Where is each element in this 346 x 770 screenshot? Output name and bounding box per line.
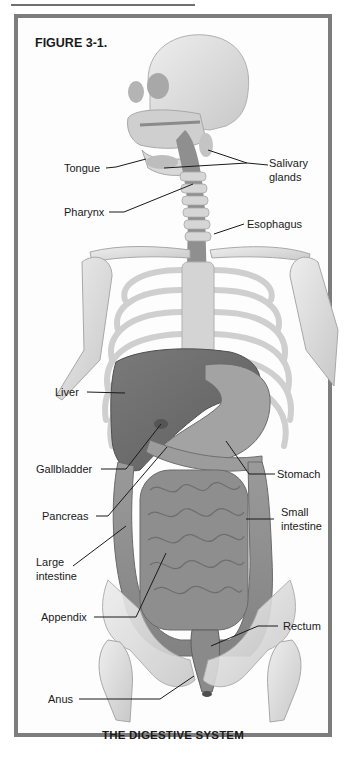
digestive-system-illustration <box>0 0 346 770</box>
label-appendix: Appendix <box>41 610 87 624</box>
small-intestine <box>140 470 248 630</box>
anus <box>202 691 212 697</box>
label-liver: Liver <box>55 385 79 399</box>
label-small-intestine-line1: Small <box>281 505 322 519</box>
label-large-intestine-line1: Large <box>36 555 77 569</box>
figure-caption: THE DIGESTIVE SYSTEM <box>0 729 346 741</box>
figure-number: FIGURE 3-1. <box>35 36 107 50</box>
label-pharynx: Pharynx <box>64 205 104 219</box>
label-small-intestine-line2: intestine <box>281 519 322 533</box>
label-salivary-glands-line1: Salivary <box>269 156 308 170</box>
label-pancreas: Pancreas <box>42 509 88 523</box>
label-stomach: Stomach <box>277 467 320 481</box>
label-gallbladder: Gallbladder <box>36 462 92 476</box>
label-salivary-glands: Salivary glands <box>269 156 308 184</box>
label-esophagus: Esophagus <box>247 217 302 231</box>
label-rectum: Rectum <box>283 619 321 633</box>
label-salivary-glands-line2: glands <box>269 170 308 184</box>
label-large-intestine-line2: intestine <box>36 569 77 583</box>
label-large-intestine: Large intestine <box>36 555 77 583</box>
label-tongue: Tongue <box>64 161 100 175</box>
label-anus: Anus <box>48 692 73 706</box>
label-small-intestine: Small intestine <box>281 505 322 533</box>
